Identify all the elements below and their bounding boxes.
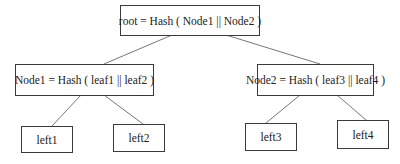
left2-label: left2 <box>128 132 149 144</box>
leaf-left2: left2 <box>113 124 165 152</box>
node1: Node1 = Hash ( leaf1 || leaf2 ) <box>15 64 154 96</box>
node2: Node2 = Hash ( leaf3 || leaf4 ) <box>257 64 374 96</box>
edge-node1-left1 <box>52 95 81 126</box>
leaf-left1: left1 <box>21 126 73 153</box>
edge-node2-left4 <box>337 95 366 120</box>
left4-label: left4 <box>352 129 373 141</box>
left3-label: left3 <box>260 131 281 143</box>
edge-node2-left3 <box>266 95 300 123</box>
root-node: root = Hash ( Node1 || Node2 ) <box>120 5 260 36</box>
edge-root-node2 <box>226 35 320 64</box>
edge-node1-left2 <box>104 95 143 124</box>
edge-root-node1 <box>104 35 172 64</box>
leaf-left3: left3 <box>245 123 297 151</box>
left1-label: left1 <box>36 134 57 146</box>
leaf-left4: left4 <box>337 120 389 149</box>
merkle-tree-diagram: root = Hash ( Node1 || Node2 ) Node1 = H… <box>0 0 400 164</box>
node2-label: Node2 = Hash ( leaf3 || leaf4 ) <box>246 74 385 86</box>
node1-label: Node1 = Hash ( leaf1 || leaf2 ) <box>15 74 154 86</box>
root-node-label: root = Hash ( Node1 || Node2 ) <box>119 15 261 27</box>
